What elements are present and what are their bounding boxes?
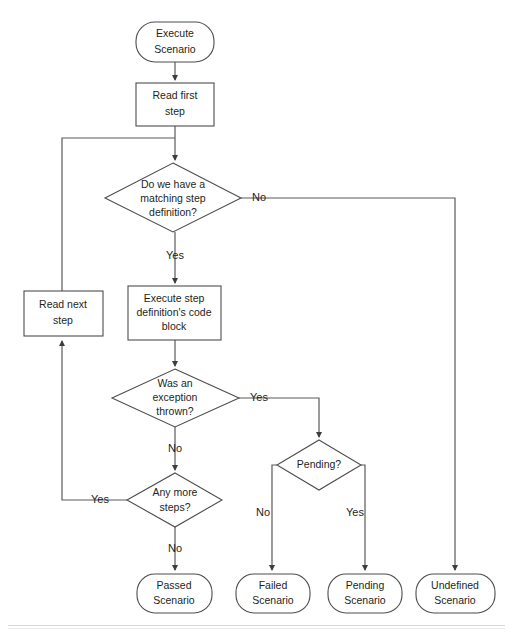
node-matching-step-definition-line1: Do we have a: [141, 178, 205, 190]
node-execute-scenario-line2: Scenario: [154, 43, 196, 55]
node-undefined-scenario-line2: Scenario: [434, 594, 476, 606]
node-execute-step-definition-line1: Execute step: [144, 292, 205, 304]
node-any-more-steps-line1: Any more: [153, 486, 198, 498]
node-read-first-step-line1: Read first: [153, 89, 198, 101]
node-read-first-step[interactable]: Read first step: [136, 83, 214, 126]
node-matching-step-definition-line2: matching step: [140, 192, 206, 204]
node-read-first-step-line2: step: [165, 105, 185, 117]
node-undefined-scenario[interactable]: Undefined Scenario: [416, 574, 495, 613]
node-failed-scenario[interactable]: Failed Scenario: [236, 574, 310, 613]
node-read-next-step[interactable]: Read next step: [24, 291, 103, 336]
node-pending-scenario-line2: Scenario: [344, 594, 386, 606]
node-exception-thrown[interactable]: Was an exception thrown?: [112, 369, 239, 427]
flowchart-canvas: Execute Scenario Read first step Do we h…: [0, 0, 513, 633]
edge-label-any-more-yes: Yes: [91, 493, 109, 505]
node-pending-scenario-line1: Pending: [346, 579, 385, 591]
node-exception-thrown-line1: Was an: [157, 377, 192, 389]
footer-divider-secondary: [8, 628, 505, 629]
node-exception-thrown-line3: thrown?: [156, 405, 194, 417]
edge-label-pending-no: No: [256, 506, 270, 518]
node-failed-scenario-line2: Scenario: [252, 594, 294, 606]
edge-label-matching-yes: Yes: [166, 249, 184, 261]
edge-pending-no-to-failed: [272, 465, 277, 570]
edge-exception-yes-to-pending: [239, 398, 319, 437]
node-matching-step-definition[interactable]: Do we have a matching step definition?: [105, 163, 241, 232]
node-read-next-step-line2: step: [53, 314, 73, 326]
node-execute-step-definition-line2: definition's code: [137, 306, 212, 318]
node-any-more-steps-line2: steps?: [160, 501, 191, 513]
node-pending-decision[interactable]: Pending?: [277, 440, 361, 490]
edge-label-exception-yes: Yes: [250, 391, 268, 403]
flowchart-svg: Execute Scenario Read first step Do we h…: [0, 0, 513, 633]
node-execute-step-definition[interactable]: Execute step definition's code block: [128, 286, 221, 340]
node-pending-scenario[interactable]: Pending Scenario: [328, 574, 402, 613]
edge-label-exception-no: No: [168, 442, 182, 454]
edge-label-matching-no: No: [252, 191, 266, 203]
node-undefined-scenario-line1: Undefined: [431, 579, 479, 591]
footer-divider: [8, 625, 505, 626]
node-pending-decision-line1: Pending?: [297, 458, 342, 470]
edge-label-any-more-no: No: [168, 542, 182, 554]
edge-anymore-yes-to-readnext: [62, 341, 127, 500]
node-execute-scenario-line1: Execute: [156, 27, 194, 39]
node-exception-thrown-line2: exception: [153, 391, 198, 403]
node-any-more-steps[interactable]: Any more steps?: [127, 473, 222, 527]
node-passed-scenario-line1: Passed: [156, 579, 191, 591]
node-execute-scenario[interactable]: Execute Scenario: [136, 22, 214, 62]
node-execute-step-definition-line3: block: [162, 320, 187, 332]
edge-label-pending-yes: Yes: [346, 506, 364, 518]
node-matching-step-definition-line3: definition?: [149, 206, 197, 218]
node-failed-scenario-line1: Failed: [259, 579, 288, 591]
node-read-next-step-line1: Read next: [39, 298, 87, 310]
node-passed-scenario-line2: Scenario: [153, 594, 195, 606]
node-passed-scenario[interactable]: Passed Scenario: [137, 574, 212, 613]
